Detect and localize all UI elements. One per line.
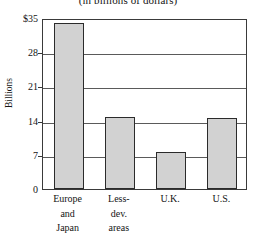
x-tick-label: U.K. xyxy=(145,192,196,207)
y-tick-label: 28 xyxy=(0,48,38,58)
x-axis-labels: EuropeandJapanLess-dev.areasU.K.U.S. xyxy=(42,192,247,238)
bar xyxy=(156,152,186,189)
bar xyxy=(105,117,135,189)
y-tick-label: 0 xyxy=(0,185,38,195)
bar xyxy=(54,23,84,189)
y-tick-label: 14 xyxy=(0,117,38,127)
x-tick-label: Less-dev.areas xyxy=(93,192,144,236)
y-tick-label: 21 xyxy=(0,82,38,92)
y-tick-label: $35 xyxy=(0,14,38,24)
x-tick-label: EuropeandJapan xyxy=(42,192,93,236)
y-tick-label: 7 xyxy=(0,151,38,161)
plot-area xyxy=(42,19,247,190)
bar xyxy=(207,118,237,189)
chart-title: (in billions of dollars) xyxy=(0,0,256,6)
bar-chart: (in billions of dollars) Billions 071421… xyxy=(0,0,256,238)
x-tick-label: U.S. xyxy=(196,192,247,207)
y-axis-ticks: 07142128$35 xyxy=(0,19,38,190)
